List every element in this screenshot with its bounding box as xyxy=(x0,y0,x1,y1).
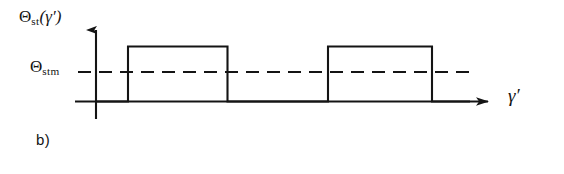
mean-level-label: Θstm xyxy=(30,58,60,77)
y-axis-label: Θst(γ′) xyxy=(19,8,61,27)
x-axis-label: γ′ xyxy=(508,86,520,105)
figure-container: Θst(γ′) Θstm γ′ b) xyxy=(0,0,564,174)
y-axis-label-argument: (γ′) xyxy=(40,7,62,26)
mean-level-label-subscript: stm xyxy=(42,65,59,77)
panel-caption: b) xyxy=(36,132,50,147)
y-axis-label-symbol: Θ xyxy=(19,7,31,26)
y-axis-label-subscript: st xyxy=(31,15,39,27)
waveform-plot xyxy=(0,0,564,174)
axis-group xyxy=(75,30,488,119)
mean-level-label-symbol: Θ xyxy=(30,57,42,76)
square-wave-trace xyxy=(96,47,470,102)
